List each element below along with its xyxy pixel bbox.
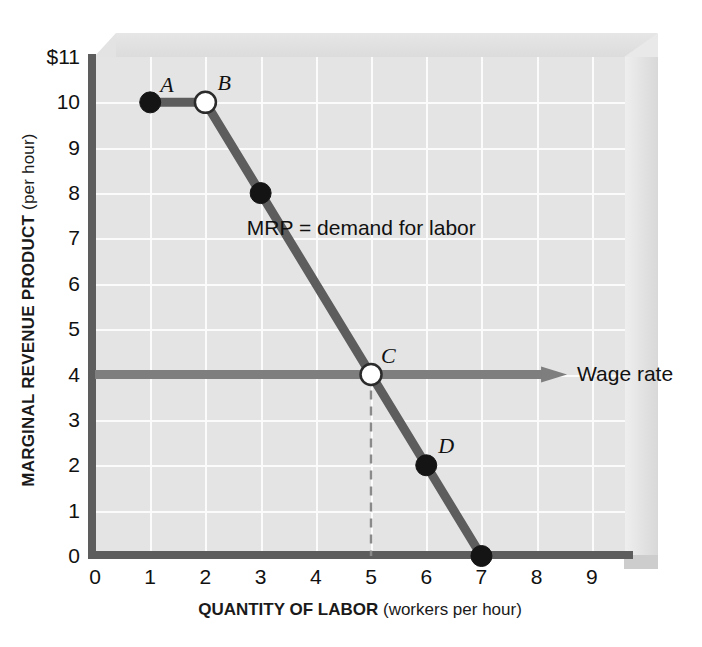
x-axis-title: QUANTITY OF LABOR (workers per hour) <box>95 600 625 620</box>
wage-rate-label: Wage rate <box>577 362 673 386</box>
y-axis-title-unit: (per hour) <box>19 133 38 210</box>
x-axis-title-main: QUANTITY OF LABOR <box>198 600 378 619</box>
y-axis-title-main: MARGINAL REVENUE PRODUCT <box>19 215 38 487</box>
point-label-a: A <box>160 72 173 98</box>
point-label-c: C <box>381 343 396 369</box>
point-label-d: D <box>438 433 454 459</box>
chart-vector-layer <box>0 0 702 647</box>
wage-rate-arrowhead <box>541 367 567 383</box>
data-point <box>250 183 271 204</box>
mrp-curve-label: MRP = demand for labor <box>247 216 476 240</box>
data-point <box>471 546 492 567</box>
point-label-b: B <box>217 70 230 96</box>
chart-figure: $11109876543210 0123456789 ABCD MRP = de… <box>0 0 702 647</box>
x-axis-title-unit: (workers per hour) <box>383 600 522 619</box>
y-axis-title: MARGINAL REVENUE PRODUCT (per hour) <box>19 95 39 525</box>
mrp-curve <box>150 102 481 556</box>
data-point-a <box>140 92 161 113</box>
data-point-d <box>416 455 437 476</box>
data-point-b <box>195 92 216 113</box>
data-point-c <box>361 364 382 385</box>
